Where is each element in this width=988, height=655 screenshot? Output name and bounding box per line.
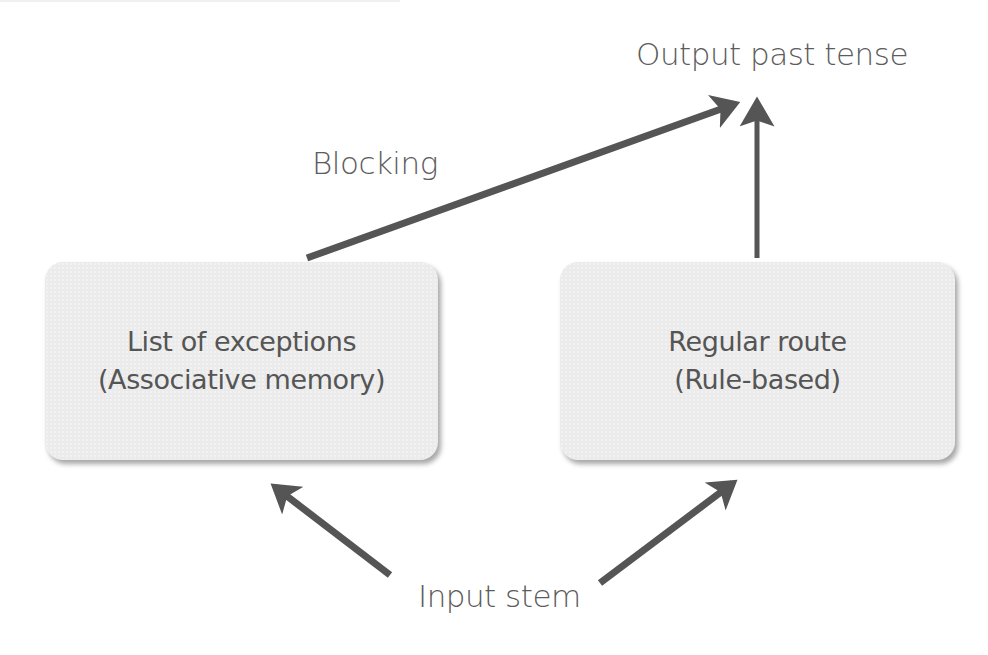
input-stem-label: Input stem [418,578,581,614]
blocking-arrow [307,104,735,258]
input-to-regular-arrow [600,483,733,583]
exceptions-title: List of exceptions [127,323,356,361]
regular-route-node: Regular route (Rule-based) [560,262,955,460]
input-to-exceptions-arrow [275,487,390,575]
regular-route-subtitle: (Rule-based) [674,361,840,399]
regular-route-title: Regular route [668,323,846,361]
blocking-edge-label: Blocking [312,145,438,181]
output-past-tense-label: Output past tense [636,36,908,72]
exceptions-subtitle: (Associative memory) [98,361,385,399]
exceptions-node: List of exceptions (Associative memory) [45,262,438,460]
